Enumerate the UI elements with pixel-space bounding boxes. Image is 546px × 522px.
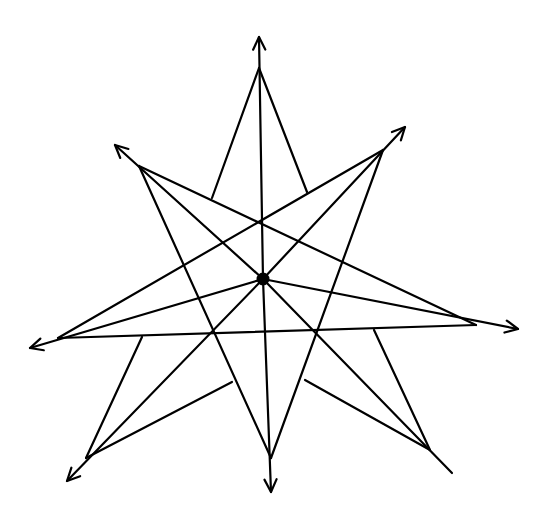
stub-se-ne-s	[305, 380, 430, 450]
ray-nw	[115, 145, 263, 279]
stub-se-w-e	[374, 330, 430, 450]
star-diagram	[0, 0, 546, 522]
ray-s	[263, 279, 271, 492]
ray-se	[263, 279, 452, 473]
center-dot	[257, 273, 270, 286]
edge-nw-s	[139, 166, 271, 458]
stub-n-ne-w	[259, 68, 307, 192]
ray-e	[263, 279, 518, 329]
edge-ne-w	[58, 150, 383, 338]
stub-n-nw-e	[212, 68, 259, 198]
ray-sw	[67, 279, 263, 481]
figure-lines	[30, 37, 518, 492]
stub-sw-w-e	[86, 337, 142, 458]
edge-w-e	[58, 325, 476, 338]
stub-sw-nw-s	[86, 382, 232, 458]
